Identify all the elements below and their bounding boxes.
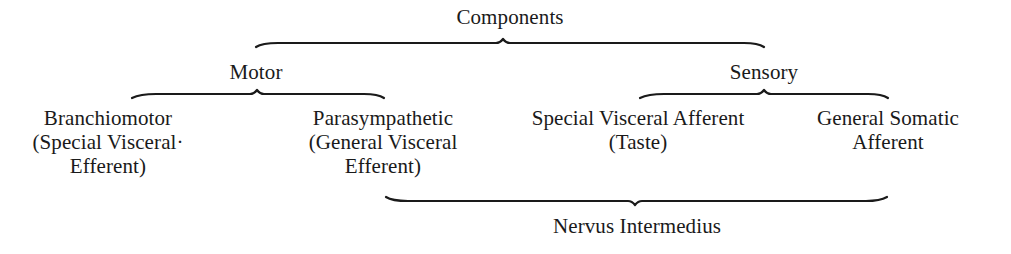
branchiomotor-line-3: Efferent) — [32, 154, 183, 178]
nervus-intermedius-label: Nervus Intermedius — [553, 214, 721, 238]
parasympathetic-line-1: Parasympathetic — [309, 106, 458, 130]
branchiomotor-node: Branchiomotor (Special Visceral· Efferen… — [32, 106, 183, 178]
motor-brace — [132, 90, 384, 98]
branchiomotor-line-1: Branchiomotor — [32, 106, 183, 130]
branchiomotor-line-2: (Special Visceral· — [32, 130, 183, 154]
nervus-intermedius-brace — [386, 197, 887, 205]
sensory-label: Sensory — [730, 60, 798, 84]
parasympathetic-line-2: (General Visceral — [309, 130, 458, 154]
parasympathetic-line-3: Efferent) — [309, 154, 458, 178]
special-visceral-afferent-node: Special Visceral Afferent (Taste) — [532, 106, 745, 154]
gsa-line-1: General Somatic — [817, 106, 959, 130]
components-brace — [256, 39, 764, 47]
sensory-brace — [640, 90, 888, 98]
general-somatic-afferent-node: General Somatic Afferent — [817, 106, 959, 154]
gsa-line-2: Afferent — [817, 130, 959, 154]
motor-label: Motor — [230, 60, 283, 84]
sva-line-2: (Taste) — [532, 130, 745, 154]
parasympathetic-node: Parasympathetic (General Visceral Effere… — [309, 106, 458, 178]
components-label: Components — [456, 5, 563, 29]
sva-line-1: Special Visceral Afferent — [532, 106, 745, 130]
